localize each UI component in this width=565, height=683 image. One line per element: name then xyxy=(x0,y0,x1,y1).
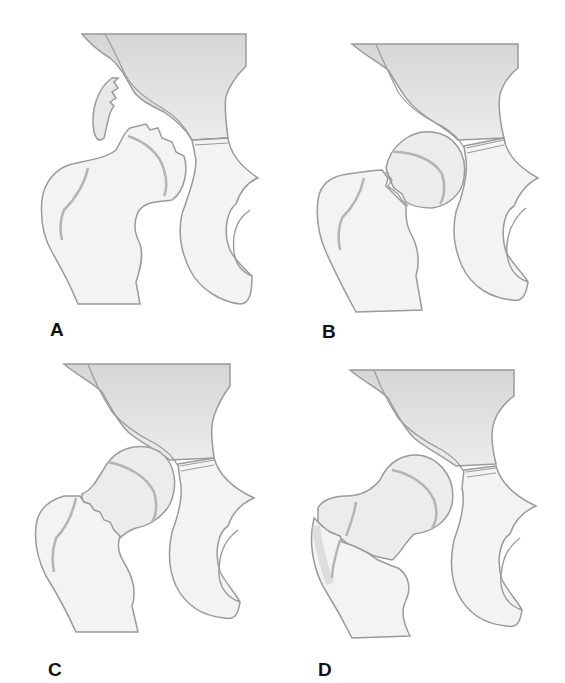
panel-c: C xyxy=(0,340,282,680)
hip-illustration-d xyxy=(282,340,565,683)
panel-label-b: B xyxy=(322,322,336,341)
panel-label-a: A xyxy=(50,320,64,339)
panel-d: D xyxy=(282,340,564,680)
panel-b: B xyxy=(282,0,564,340)
hip-illustration-a xyxy=(0,0,282,340)
panel-a: A xyxy=(0,0,282,340)
hip-illustration-b xyxy=(282,0,565,340)
hip-illustration-c xyxy=(0,340,282,683)
panel-label-c: C xyxy=(48,660,62,679)
panel-label-d: D xyxy=(318,660,332,679)
